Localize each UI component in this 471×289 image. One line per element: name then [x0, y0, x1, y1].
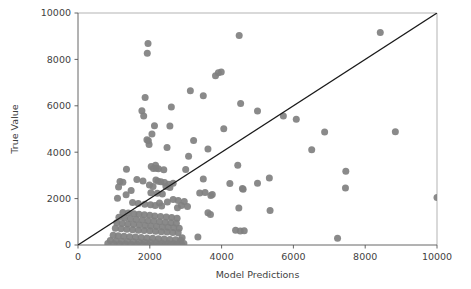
scatter-point — [293, 116, 300, 123]
scatter-point — [152, 202, 159, 209]
x-tick-label: 0 — [75, 251, 81, 262]
scatter-point — [133, 176, 140, 183]
y-tick-label: 4000 — [47, 147, 71, 158]
scatter-point — [200, 176, 207, 183]
scatter-point — [234, 162, 241, 169]
scatter-point — [182, 166, 189, 173]
scatter-point — [147, 189, 154, 196]
scatter-point — [174, 204, 181, 211]
scatter-point — [123, 166, 130, 173]
scatter-point — [142, 94, 149, 101]
x-tick-label: 8000 — [353, 251, 377, 262]
scatter-point — [237, 100, 244, 107]
x-tick-label: 4000 — [210, 251, 234, 262]
scatter-point — [226, 180, 233, 187]
scatter-point — [342, 168, 349, 175]
scatter-point — [164, 144, 171, 151]
scatter-point — [166, 122, 173, 129]
scatter-point — [164, 199, 171, 206]
y-tick-label: 10000 — [41, 7, 71, 18]
chart-canvas: 0200040006000800010000020004000600080001… — [0, 0, 471, 289]
y-tick-label: 6000 — [47, 100, 71, 111]
scatter-point — [204, 145, 211, 152]
scatter-point — [151, 122, 158, 129]
scatter-point — [239, 185, 246, 192]
scatter-plot-figure: 0200040006000800010000020004000600080001… — [0, 0, 471, 289]
scatter-point — [145, 40, 152, 47]
scatter-point — [115, 184, 122, 191]
scatter-point — [377, 29, 384, 36]
scatter-point — [184, 203, 191, 210]
scatter-point — [139, 177, 146, 184]
scatter-point — [215, 69, 222, 76]
y-tick-label: 2000 — [47, 193, 71, 204]
scatter-point — [220, 125, 227, 132]
x-axis-title: Model Predictions — [216, 269, 300, 280]
scatter-point — [114, 195, 121, 202]
scatter-point — [236, 32, 243, 39]
scatter-point — [254, 107, 261, 114]
scatter-point — [254, 180, 261, 187]
scatter-point — [168, 103, 175, 110]
scatter-point — [266, 174, 273, 181]
scatter-point — [267, 207, 274, 214]
scatter-point — [152, 162, 159, 169]
scatter-point — [143, 136, 150, 143]
scatter-point — [207, 211, 214, 218]
scatter-point — [321, 129, 328, 136]
scatter-point — [190, 137, 197, 144]
scatter-point — [148, 131, 155, 138]
scatter-point — [140, 113, 147, 120]
y-tick-label: 8000 — [47, 54, 71, 65]
scatter-point — [308, 146, 315, 153]
x-tick-label: 10000 — [422, 251, 452, 262]
scatter-point — [185, 153, 192, 160]
scatter-point — [123, 191, 130, 198]
scatter-point — [194, 233, 201, 240]
scatter-point — [207, 192, 214, 199]
x-tick-label: 6000 — [281, 251, 305, 262]
x-tick-label: 2000 — [138, 251, 162, 262]
scatter-point — [241, 227, 248, 234]
y-axis-title: True Value — [9, 104, 20, 154]
scatter-point — [235, 205, 242, 212]
scatter-point — [392, 128, 399, 135]
y-tick-label: 0 — [65, 239, 71, 250]
scatter-point — [334, 235, 341, 242]
scatter-point — [342, 184, 349, 191]
scatter-point — [200, 92, 207, 99]
scatter-point — [158, 203, 165, 210]
scatter-point — [144, 50, 151, 57]
scatter-point — [150, 183, 157, 190]
scatter-point — [160, 166, 167, 173]
scatter-point — [187, 87, 194, 94]
